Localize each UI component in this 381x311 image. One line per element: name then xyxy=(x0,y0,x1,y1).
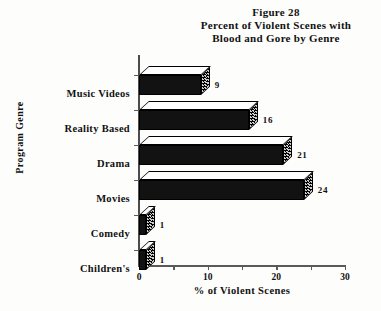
x-tick-10 xyxy=(208,265,209,270)
bar-front-face xyxy=(139,215,146,235)
bar-value-label: 1 xyxy=(160,220,165,230)
x-tick-25 xyxy=(311,265,312,270)
bar-front-face xyxy=(139,110,249,130)
bar-reality-based: 16 xyxy=(139,101,258,130)
x-tick-label-20: 20 xyxy=(272,272,282,282)
category-label-movies: Movies xyxy=(96,193,130,204)
bar-front-face xyxy=(139,75,201,95)
y-axis-title: Program Genre xyxy=(14,88,25,188)
bar-children-s: 1 xyxy=(139,241,155,270)
x-tick-20 xyxy=(276,265,277,270)
bar-front-face xyxy=(139,250,146,270)
bar-front-face xyxy=(139,145,283,165)
category-label-reality-based: Reality Based xyxy=(65,123,130,134)
plot-area: 0102030 9Music Videos16Reality Based21Dr… xyxy=(139,55,345,265)
x-tick-30 xyxy=(345,265,346,270)
bar-top-face xyxy=(139,171,314,180)
bar-top-face xyxy=(139,136,293,145)
category-label-drama: Drama xyxy=(97,158,130,169)
category-label-children-s: Children's xyxy=(80,263,130,274)
category-label-comedy: Comedy xyxy=(91,228,130,239)
x-tick-label-30: 30 xyxy=(340,272,350,282)
chart-title-line-3: Blood and Gore by Genre xyxy=(176,32,376,45)
bar-movies: 24 xyxy=(139,171,313,200)
bar-music-videos: 9 xyxy=(139,66,210,95)
category-label-music-videos: Music Videos xyxy=(67,88,130,99)
bar-value-label: 21 xyxy=(297,150,307,160)
chart-title-line-2: Percent of Violent Scenes with xyxy=(176,19,376,32)
bar-value-label: 24 xyxy=(318,185,328,195)
bar-top-face xyxy=(139,66,211,75)
bar-value-label: 9 xyxy=(215,80,220,90)
bar-comedy: 1 xyxy=(139,206,155,235)
bar-value-label: 16 xyxy=(263,115,273,125)
chart-figure: Figure 28 Percent of Violent Scenes with… xyxy=(0,0,381,311)
x-tick-15 xyxy=(242,265,243,270)
bar-top-face xyxy=(139,101,259,110)
x-axis-title: % of Violent Scenes xyxy=(139,285,345,296)
bar-drama: 21 xyxy=(139,136,292,165)
x-tick-5 xyxy=(173,265,174,270)
chart-title-line-1: Figure 28 xyxy=(176,6,376,19)
x-tick-label-0: 0 xyxy=(137,272,142,282)
chart-title: Figure 28 Percent of Violent Scenes with… xyxy=(176,6,376,45)
x-tick-label-10: 10 xyxy=(203,272,213,282)
bar-front-face xyxy=(139,180,304,200)
bar-value-label: 1 xyxy=(160,255,165,265)
